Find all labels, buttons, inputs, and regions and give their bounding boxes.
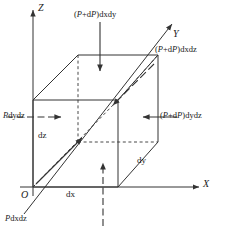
internal-direction-arrows (33, 55, 158, 187)
area-term: dxdz (10, 213, 27, 223)
dy-dimension-label: dy (137, 156, 146, 165)
origin-label: O (21, 190, 28, 200)
area-term: dxdy (99, 9, 116, 19)
area-term: dydz (185, 110, 202, 120)
right-face-force-label: (P+dP)dydz (160, 111, 202, 120)
left-face-force-label: Pdydz (3, 111, 25, 120)
z-axis-label: Z (38, 3, 44, 13)
cube-solid-edges (33, 55, 158, 187)
dx-dimension-label: dx (66, 190, 75, 199)
y-axis-label: Y (173, 29, 179, 39)
cube-hidden-edges (33, 55, 158, 187)
area-term: dydz (8, 110, 25, 120)
top-face-force-label: (P+dP)dxdy (74, 10, 116, 19)
bottom-left-force-label: Pdxdz (5, 214, 27, 223)
y-axis-line (24, 24, 172, 214)
cube-edge-top-left-receding (33, 55, 78, 100)
cube-inner-diagonal (33, 100, 118, 187)
back-top-right-force-label: (P+dP)dxdz (155, 45, 197, 54)
dz-dimension-label: dz (38, 131, 47, 140)
area-term: dxdz (180, 44, 197, 54)
x-axis-label: X (203, 179, 209, 189)
force-arrows (6, 22, 177, 226)
pressure-cube-figure: Z Y X O (P+dP)dxdy (P+dP)dxdz (P+dP)dydz… (0, 0, 225, 228)
